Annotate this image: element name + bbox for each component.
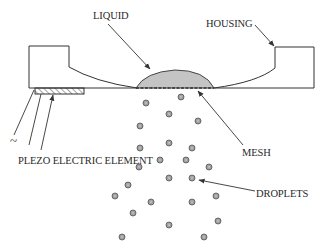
droplet-highlight bbox=[180, 96, 183, 99]
droplet-highlight bbox=[139, 125, 142, 128]
droplet-highlight bbox=[168, 142, 171, 145]
droplet-highlight bbox=[145, 102, 148, 105]
droplet-highlight bbox=[215, 195, 218, 198]
droplet-highlight bbox=[138, 166, 141, 169]
droplet-highlight bbox=[191, 177, 194, 180]
droplet-highlight bbox=[114, 195, 117, 198]
droplet-highlight bbox=[139, 147, 142, 150]
droplets-label: DROPLETS bbox=[256, 188, 309, 199]
piezo-label: PLEZO ELECTRIC ELEMENT bbox=[18, 155, 154, 166]
droplet-cloud bbox=[112, 94, 221, 240]
piezo-leader bbox=[41, 95, 53, 150]
droplet-highlight bbox=[150, 201, 153, 204]
housing-leader bbox=[255, 25, 274, 46]
droplet-highlight bbox=[197, 120, 200, 123]
mesh-leader bbox=[198, 91, 243, 145]
droplet-highlight bbox=[191, 201, 194, 204]
droplets-leader bbox=[199, 180, 255, 191]
droplet-highlight bbox=[203, 236, 206, 239]
piezo-wire-2 bbox=[29, 94, 41, 145]
left-housing bbox=[29, 46, 137, 88]
droplet-highlight bbox=[185, 159, 188, 162]
droplet-highlight bbox=[132, 212, 135, 215]
liquid-leader bbox=[108, 24, 150, 69]
right-housing bbox=[214, 47, 314, 88]
piezo-wire-1 bbox=[14, 90, 34, 135]
droplet-highlight bbox=[168, 177, 171, 180]
droplet-highlight bbox=[217, 220, 220, 223]
piezo-element bbox=[35, 88, 84, 94]
droplet-highlight bbox=[127, 184, 130, 187]
droplet-highlight bbox=[159, 159, 162, 162]
liquid-dome bbox=[136, 70, 214, 88]
nebulizer-diagram: ~ LIQUID HOUSING MESH PLEZO ELECTRIC ELE… bbox=[0, 0, 321, 250]
droplet-highlight bbox=[121, 236, 124, 239]
housing-label: HOUSING bbox=[206, 18, 253, 29]
droplet-highlight bbox=[168, 224, 171, 227]
liquid-label: LIQUID bbox=[93, 10, 129, 21]
droplet-highlight bbox=[168, 113, 171, 116]
ac-source-symbol: ~ bbox=[10, 133, 17, 148]
droplet-highlight bbox=[191, 147, 194, 150]
mesh-label: MESH bbox=[242, 147, 271, 158]
droplet-highlight bbox=[208, 166, 211, 169]
